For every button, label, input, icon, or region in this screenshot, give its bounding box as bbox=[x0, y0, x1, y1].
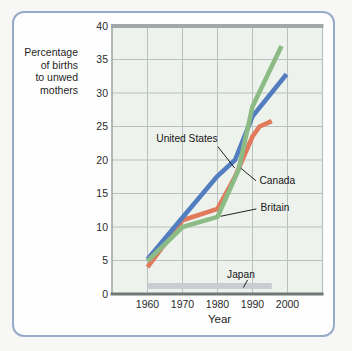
annotation-canada: Canada bbox=[259, 175, 295, 187]
figure-page: Percentage of births to unwed mothers 40… bbox=[0, 0, 352, 351]
y-tick-15: 15 bbox=[80, 188, 108, 199]
x-tick-1960: 1960 bbox=[128, 299, 168, 310]
y-tick-25: 25 bbox=[80, 121, 108, 132]
y-tick-30: 30 bbox=[80, 88, 108, 99]
x-tick-2000: 2000 bbox=[268, 299, 308, 310]
y-tick-35: 35 bbox=[80, 54, 108, 65]
x-tick-1980: 1980 bbox=[198, 299, 238, 310]
x-tick-1990: 1990 bbox=[233, 299, 273, 310]
annotation-britain: Britain bbox=[261, 202, 290, 214]
y-tick-20: 20 bbox=[80, 155, 108, 166]
annotation-united-states: United States bbox=[156, 133, 217, 145]
annotation-japan: Japan bbox=[196, 269, 286, 281]
x-tick-1970: 1970 bbox=[163, 299, 203, 310]
x-axis-label: Year bbox=[189, 313, 250, 325]
y-tick-5: 5 bbox=[80, 255, 108, 266]
y-tick-0: 0 bbox=[80, 289, 108, 300]
y-tick-10: 10 bbox=[80, 222, 108, 233]
y-tick-40: 40 bbox=[80, 21, 108, 32]
